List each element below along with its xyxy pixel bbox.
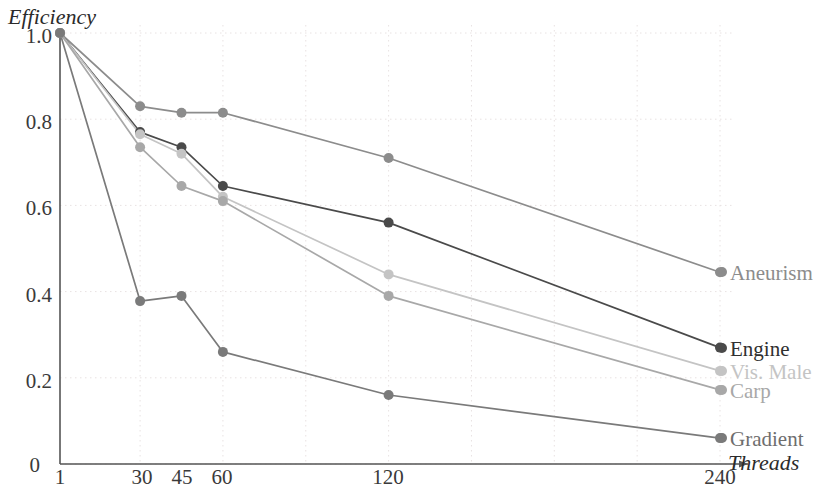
y-tick-1-0: 1.0 xyxy=(0,26,52,47)
series-label-engine: Engine xyxy=(730,339,789,360)
x-tick-120: 120 xyxy=(366,467,410,488)
series-label-gradient: Gradient xyxy=(730,429,803,450)
axes xyxy=(60,29,748,468)
gridlines xyxy=(60,25,735,464)
series-markers xyxy=(55,28,727,443)
efficiency-vs-threads-chart: Efficiency Threads 1.0 0.8 0.6 0.4 0.2 0… xyxy=(0,0,838,499)
x-tick-30: 30 xyxy=(120,467,164,488)
x-tick-1: 1 xyxy=(48,467,72,488)
x-tick-240: 240 xyxy=(698,467,742,488)
series-label-aneurism: Aneurism xyxy=(730,263,813,284)
y-tick-0-8: 0.8 xyxy=(0,112,52,133)
y-tick-0-6: 0.6 xyxy=(0,198,52,219)
y-tick-0-4: 0.4 xyxy=(0,285,52,306)
chart-canvas xyxy=(0,0,838,499)
y-tick-0: 0 xyxy=(0,455,40,476)
x-tick-60: 60 xyxy=(200,467,244,488)
y-tick-0-2: 0.2 xyxy=(0,371,52,392)
x-tick-45: 45 xyxy=(160,467,204,488)
series-label-carp: Carp xyxy=(730,381,771,402)
